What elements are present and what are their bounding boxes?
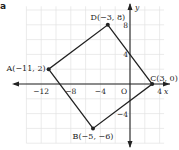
y-axis-label: y bbox=[134, 3, 140, 12]
x-tick-label: 4 bbox=[157, 87, 162, 96]
y-tick-label: −4 bbox=[117, 110, 128, 119]
y-tick-label: 8 bbox=[123, 21, 128, 30]
vertices: A(−11, 2)B(−5, −6)C(3, 0)D(−3, 8) bbox=[6, 13, 178, 142]
x-tick-label: −4 bbox=[95, 87, 106, 96]
vertex-a bbox=[47, 67, 51, 71]
x-axis-label: x bbox=[164, 87, 169, 96]
vertex-label-a: A(−11, 2) bbox=[6, 64, 46, 73]
x-axis-arrow-left-icon bbox=[12, 82, 19, 87]
vertex-d bbox=[106, 23, 110, 27]
vertex-b bbox=[91, 126, 95, 130]
origin-label: O bbox=[121, 87, 127, 96]
y-axis-arrow-down-icon bbox=[128, 141, 133, 148]
x-tick-label: −12 bbox=[33, 87, 49, 96]
vertex-label-d: D(−3, 8) bbox=[90, 13, 125, 22]
coordinate-plane-diagram: −12−8−4484−4Oxy A(−11, 2)B(−5, −6)C(3, 0… bbox=[0, 0, 179, 150]
y-axis-arrow-up-icon bbox=[128, 3, 133, 10]
vertex-label-b: B(−5, −6) bbox=[73, 132, 114, 141]
grid bbox=[26, 6, 164, 143]
vertex-label-c: C(3, 0) bbox=[150, 74, 178, 83]
